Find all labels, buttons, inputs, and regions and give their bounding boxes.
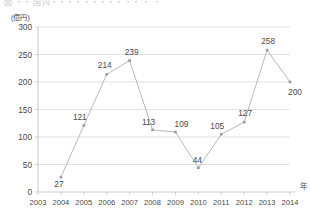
data-value-label: 44 [193,155,203,165]
data-value-label: 27 [54,179,64,189]
data-value-label: 105 [210,121,224,131]
data-point-marker [128,59,131,62]
y-tick-label: 200 [18,77,32,87]
x-tick-label: 2005 [75,198,92,207]
data-value-label: 109 [175,119,189,129]
x-tick-label: 2010 [190,198,207,207]
x-tick-label: 2011 [213,198,229,207]
y-tick-label: 100 [18,132,32,142]
figure-container: 図 ・・ 国内・・・・・・・・・・・ ・ ・ (億円) 050100150200… [0,0,310,218]
y-tick-label: 0 [27,187,32,197]
x-tick-label: 2004 [52,198,69,207]
data-point-marker [220,133,223,136]
x-tick-label: 2003 [30,198,47,207]
data-point-marker [243,121,246,124]
data-point-marker [197,167,200,170]
y-tick-label: 300 [18,22,32,32]
x-tick-labels-group: 2003200420052006200720082009201020112012… [30,198,299,207]
x-tick-label: 2009 [167,198,184,207]
data-point-marker [60,176,63,179]
data-markers-group [60,49,292,179]
x-tick-label: 2014 [282,198,299,207]
data-point-marker [83,124,86,127]
x-tick-label: 2007 [121,198,138,207]
data-value-labels-group: 2712121423911310944105127258200 [54,36,302,189]
x-tick-label: 2006 [98,198,115,207]
data-series-line [61,50,290,177]
y-tick-label: 50 [23,160,33,170]
data-value-label: 258 [261,36,275,46]
line-chart: 050100150200250300 200320042005200620072… [0,0,310,218]
x-tick-label: 2013 [259,198,276,207]
x-axis-name-label: 年 [300,181,308,191]
data-point-marker [289,81,292,84]
data-point-marker [151,129,154,132]
y-tick-label: 250 [18,50,32,60]
y-tick-label: 150 [18,105,32,115]
x-tick-marks-group [38,192,290,195]
data-value-label: 239 [125,47,139,57]
data-value-label: 127 [238,108,252,118]
data-value-label: 113 [142,117,156,127]
y-tick-labels-group: 050100150200250300 [18,22,32,197]
data-point-marker [105,73,108,76]
data-point-marker [266,49,269,52]
x-tick-label: 2012 [236,198,253,207]
data-point-marker [174,131,177,134]
x-tick-label: 2008 [144,198,161,207]
data-value-label: 200 [288,87,302,97]
data-value-label: 214 [98,60,112,70]
data-value-label: 121 [73,112,87,122]
